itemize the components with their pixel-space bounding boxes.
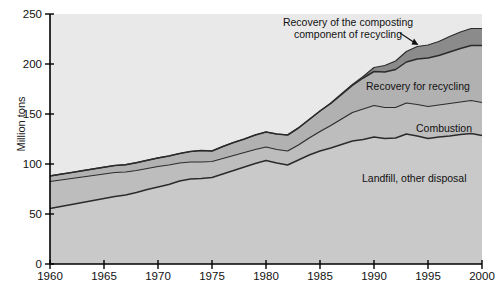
x-tick-label-1960: 1960 <box>28 270 72 282</box>
annotation-combustion: Combustion <box>416 122 472 134</box>
x-tick-label-1970: 1970 <box>136 270 180 282</box>
y-tick-label-50: 50 <box>6 208 42 220</box>
x-tick-label-1965: 1965 <box>82 270 126 282</box>
annotation-landfill: Landfill, other disposal <box>362 172 466 184</box>
x-tick-label-1980: 1980 <box>244 270 288 282</box>
x-tick-label-1990: 1990 <box>352 270 396 282</box>
y-tick-label-100: 100 <box>6 158 42 170</box>
x-tick-label-1995: 1995 <box>406 270 450 282</box>
x-tick-label-1975: 1975 <box>190 270 234 282</box>
x-tick-label-2000: 2000 <box>460 270 496 282</box>
stacked-area-plot <box>0 0 496 293</box>
annotation-composting-line1: Recovery of the composting <box>278 16 418 28</box>
y-axis-title: Million tons <box>15 79 27 169</box>
chart-container: Million tons 0 50 100 150 200 250 1960 1… <box>0 0 496 293</box>
y-tick-label-0: 0 <box>6 258 42 270</box>
y-tick-label-200: 200 <box>6 58 42 70</box>
y-tick-label-150: 150 <box>6 108 42 120</box>
annotation-composting-line2: component of recycling <box>278 28 418 40</box>
annotation-recycling: Recovery for recycling <box>366 80 470 92</box>
y-tick-label-250: 250 <box>6 8 42 20</box>
x-tick-label-1985: 1985 <box>298 270 342 282</box>
